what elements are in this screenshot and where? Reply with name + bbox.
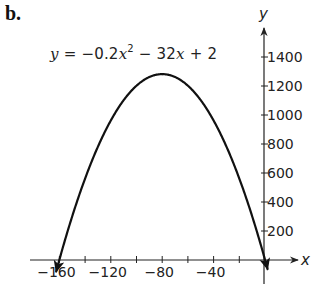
curve-left-branch — [56, 74, 162, 271]
plot-area: −160−120−80−40x 200400600800100012001400… — [0, 0, 312, 293]
x-tick-label: −40 — [196, 264, 226, 280]
x-axis-label: x — [300, 251, 310, 269]
y-axis-label: y — [258, 5, 269, 23]
y-tick-label: 1200 — [267, 78, 303, 94]
x-tick-label: −80 — [144, 264, 174, 280]
y-tick-label: 800 — [267, 136, 294, 152]
chart-figure: b. y = −0.2x2 − 32x + 2 −160−120−80−40x … — [0, 0, 312, 293]
parabola-curve — [56, 74, 267, 271]
y-tick-label: 600 — [267, 165, 294, 181]
y-tick-label: 1400 — [267, 49, 303, 65]
y-axis: 200400600800100012001400y — [258, 5, 303, 284]
y-tick-label: 1000 — [267, 107, 303, 123]
x-axis: −160−120−80−40x — [30, 251, 310, 280]
x-tick-label: −120 — [89, 264, 127, 280]
y-tick-label: 200 — [267, 223, 294, 239]
curve-right-branch — [162, 74, 267, 269]
y-tick-label: 400 — [267, 194, 294, 210]
